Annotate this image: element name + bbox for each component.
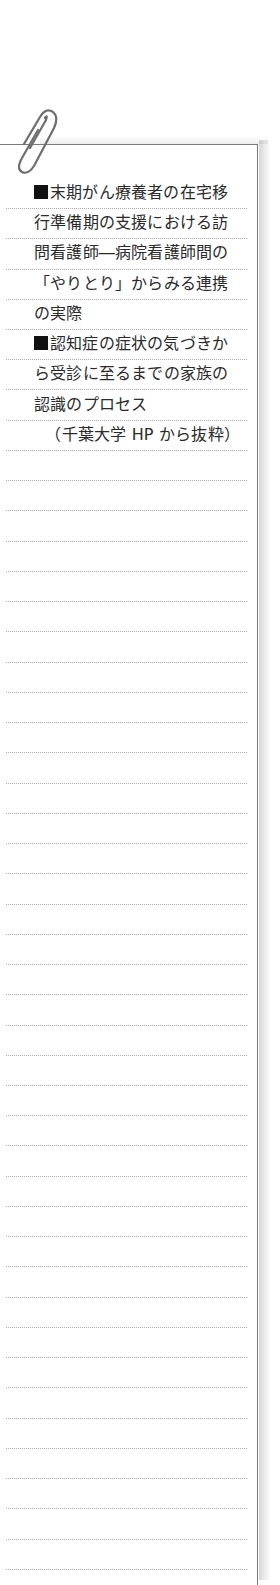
ruled-line (6, 1478, 247, 1479)
ruled-line (6, 904, 247, 905)
ruled-line (6, 994, 247, 995)
memo-line: の実際 (34, 299, 244, 329)
memo-line: 問看護師―病院看護師間の (34, 238, 244, 268)
memo-paper: 末期がん療養者の在宅移 行準備期の支援における訪 問看護師―病院看護師間の 「や… (0, 144, 258, 1585)
memo-line-text: 認知症の症状の気づきか (50, 334, 228, 353)
ruled-line (6, 1508, 247, 1509)
ruled-line (6, 601, 247, 602)
ruled-line (6, 1176, 247, 1177)
square-bullet-icon (34, 185, 48, 199)
ruled-line (6, 1387, 247, 1388)
memo-line-text: 末期がん療養者の在宅移 (50, 183, 228, 202)
paper-shadow-right (259, 140, 271, 1580)
ruled-line (6, 934, 247, 935)
ruled-line (6, 1418, 247, 1419)
ruled-line (6, 1115, 247, 1116)
memo-line: ら受診に至るまでの家族の (34, 359, 244, 389)
square-bullet-icon (34, 336, 48, 350)
ruled-line (6, 873, 247, 874)
ruled-line (6, 1297, 247, 1298)
ruled-line (6, 813, 247, 814)
paper-shadow-top (40, 136, 268, 144)
ruled-line (6, 1569, 247, 1570)
ruled-line (6, 1055, 247, 1056)
ruled-line (6, 752, 247, 753)
ruled-line (6, 662, 247, 663)
ruled-line (6, 722, 247, 723)
ruled-line (6, 510, 247, 511)
ruled-line (6, 783, 247, 784)
ruled-line (6, 1357, 247, 1358)
memo-line: 認識のプロセス (34, 390, 244, 420)
citation: （千葉大学 HP から抜粋） (34, 420, 240, 450)
memo-line: 行準備期の支援における訪 (34, 208, 244, 238)
ruled-line (6, 450, 247, 451)
memo-line: 「やりとり」からみる連携 (34, 269, 244, 299)
ruled-line (6, 1025, 247, 1026)
ruled-line (6, 1085, 247, 1086)
ruled-line (6, 843, 247, 844)
ruled-line (6, 964, 247, 965)
ruled-line (6, 631, 247, 632)
ruled-line (6, 1448, 247, 1449)
ruled-line (6, 692, 247, 693)
ruled-line (6, 480, 247, 481)
ruled-line (6, 571, 247, 572)
memo-line: 末期がん療養者の在宅移 (34, 178, 244, 208)
ruled-line (6, 1145, 247, 1146)
ruled-line (6, 1327, 247, 1328)
ruled-line (6, 1266, 247, 1267)
ruled-line (6, 541, 247, 542)
memo-line: 認知症の症状の気づきか (34, 329, 244, 359)
ruled-line (6, 1206, 247, 1207)
paperclip-icon (8, 104, 58, 176)
ruled-line (6, 1539, 247, 1540)
ruled-line (6, 1236, 247, 1237)
